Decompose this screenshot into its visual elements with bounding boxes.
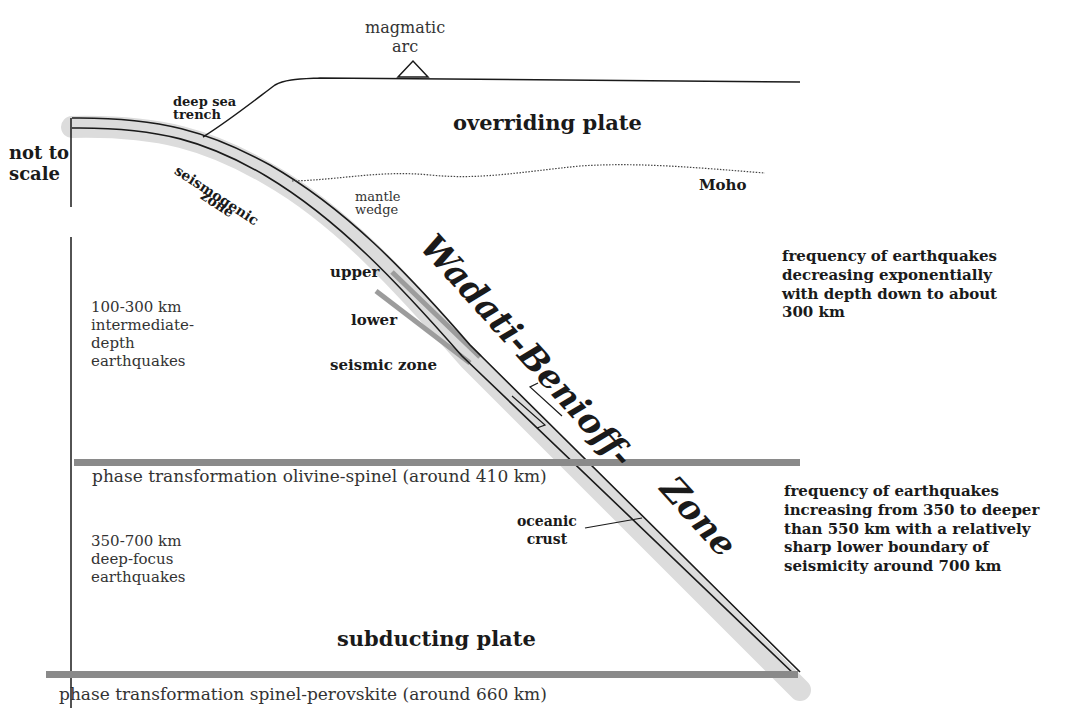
oceanic-crust-label: oceanic crust	[517, 512, 577, 548]
not-to-scale-label: not to scale	[9, 143, 69, 184]
slab-shading	[72, 127, 800, 690]
mantle-wedge-label: mantle wedge	[355, 190, 401, 216]
phase-boundary-410	[74, 459, 800, 466]
frequency-increasing-note: frequency of earthquakes increasing from…	[784, 482, 1039, 576]
deep-focus-label: 350-700 km deep-focus earthquakes	[91, 532, 186, 586]
subducting-plate-label: subducting plate	[337, 628, 536, 650]
phase-boundary-660	[46, 671, 798, 678]
phase-410-label: phase transformation olivine-spinel (aro…	[92, 468, 547, 486]
intermediate-depth-label: 100-300 km intermediate- depth earthquak…	[91, 298, 194, 370]
seismic-zone-label: seismic zone	[330, 358, 437, 374]
magmatic-arc-label: magmatic arc	[365, 18, 445, 56]
overriding-plate-label: overriding plate	[453, 112, 642, 134]
frequency-decreasing-note: frequency of earthquakes decreasing expo…	[782, 247, 997, 322]
subduction-zone-diagram: magmatic arc deep sea trench not to scal…	[0, 0, 1065, 724]
upper-label: upper	[330, 265, 379, 281]
deep-sea-trench-label: deep sea trench	[173, 95, 236, 121]
moho-label: Moho	[699, 178, 747, 194]
magmatic-arc-icon	[398, 61, 428, 77]
phase-660-label: phase transformation spinel-perovskite (…	[59, 686, 547, 704]
slab-crust-line	[72, 128, 795, 675]
lower-label: lower	[351, 313, 397, 329]
moho-line	[292, 165, 765, 181]
